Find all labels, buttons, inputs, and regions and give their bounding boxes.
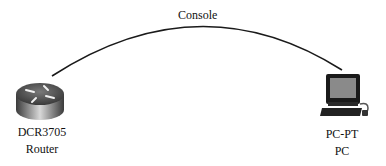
router-label: DCR3705 Router (12, 124, 72, 158)
router-type: Router (12, 141, 72, 158)
network-topology-diagram: Console DCR3705 (0, 0, 386, 166)
pc-label: PC-PT PC (312, 126, 372, 160)
pc-icon[interactable] (318, 72, 372, 118)
pc-type: PC (312, 143, 372, 160)
router-icon[interactable] (14, 80, 66, 122)
pc-name: PC-PT (312, 126, 372, 143)
link-label: Console (178, 8, 217, 23)
router-name: DCR3705 (12, 124, 72, 141)
